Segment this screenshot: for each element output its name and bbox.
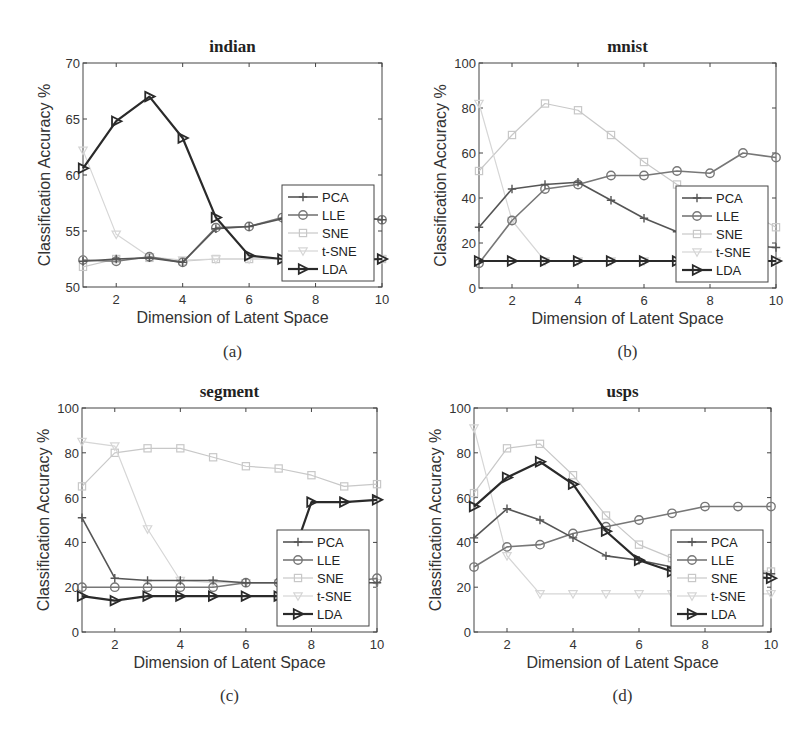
x-tick-label: 10: [769, 293, 783, 308]
y-tick-label: 0: [72, 625, 79, 640]
x-axis-label: Dimension of Latent Space: [526, 654, 718, 671]
legend-label: SNE: [711, 571, 738, 586]
legend-label: t-SNE: [317, 589, 352, 604]
y-tick-label: 100: [57, 401, 79, 416]
legend-label: PCA: [322, 190, 349, 205]
x-tick-label: 2: [111, 637, 118, 652]
y-tick-label: 20: [65, 580, 79, 595]
y-axis-label: Classification Accuracy %: [35, 429, 52, 611]
x-tick-label: 6: [640, 293, 647, 308]
x-tick-label: 6: [635, 637, 642, 652]
x-tick-label: 6: [242, 637, 249, 652]
legend-label: t-SNE: [322, 244, 357, 259]
legend-label: LDA: [711, 607, 737, 622]
y-tick-label: 55: [66, 224, 80, 239]
x-axis-label: Dimension of Latent Space: [133, 654, 325, 671]
y-tick-label: 0: [469, 281, 476, 296]
chart-title: mnist: [607, 37, 648, 56]
legend-label: SNE: [716, 227, 743, 242]
y-tick-label: 50: [66, 280, 80, 295]
x-tick-label: 10: [370, 637, 384, 652]
x-tick-label: 4: [177, 637, 184, 652]
panel-caption: (a): [223, 342, 242, 361]
chart-panel-indian: indian5055606570246810Dimension of Laten…: [36, 37, 389, 361]
chart-panel-segment: segment020406080100246810Dimension of La…: [35, 382, 384, 705]
x-tick-label: 2: [508, 293, 515, 308]
legend-label: LLE: [317, 553, 340, 568]
y-tick-label: 100: [454, 56, 476, 71]
y-tick-label: 40: [65, 535, 79, 550]
chart-title: usps: [606, 382, 639, 401]
x-axis-label: Dimension of Latent Space: [136, 309, 328, 326]
y-tick-label: 80: [65, 446, 79, 461]
legend-label: t-SNE: [716, 245, 751, 260]
y-tick-label: 80: [462, 101, 476, 116]
x-tick-label: 4: [569, 637, 576, 652]
legend-label: LDA: [716, 263, 742, 278]
legend-label: LLE: [716, 209, 739, 224]
x-tick-label: 6: [245, 292, 252, 307]
legend-label: SNE: [322, 226, 349, 241]
y-tick-label: 80: [457, 446, 471, 461]
x-tick-label: 2: [503, 637, 510, 652]
y-tick-label: 40: [462, 191, 476, 206]
x-tick-label: 2: [113, 292, 120, 307]
chart-panel-mnist: mnist020406080100246810Dimension of Late…: [432, 37, 783, 361]
legend: PCALLESNEt-SNELDA: [282, 185, 374, 281]
y-tick-label: 0: [464, 625, 471, 640]
x-tick-label: 4: [574, 293, 581, 308]
y-axis-label: Classification Accuracy %: [432, 84, 449, 266]
legend-label: LLE: [322, 208, 345, 223]
y-tick-label: 65: [66, 112, 80, 127]
y-axis-label: Classification Accuracy %: [36, 84, 53, 266]
legend: PCALLESNEt-SNELDA: [676, 186, 768, 282]
chart-title: segment: [200, 382, 260, 401]
panel-caption: (c): [220, 686, 239, 705]
y-tick-label: 60: [66, 168, 80, 183]
legend-label: PCA: [711, 535, 738, 550]
x-tick-label: 8: [701, 637, 708, 652]
panel-caption: (d): [613, 686, 633, 705]
legend-label: SNE: [317, 571, 344, 586]
y-tick-label: 20: [462, 236, 476, 251]
x-axis-label: Dimension of Latent Space: [531, 310, 723, 327]
chart-title: indian: [209, 37, 256, 56]
legend-label: LDA: [322, 262, 348, 277]
legend-label: LLE: [711, 553, 734, 568]
x-tick-label: 10: [375, 292, 389, 307]
legend-label: PCA: [716, 191, 743, 206]
y-axis-label: Classification Accuracy %: [427, 429, 444, 611]
y-tick-label: 70: [66, 56, 80, 71]
y-tick-label: 60: [65, 491, 79, 506]
y-tick-label: 100: [449, 401, 471, 416]
x-tick-label: 10: [764, 637, 778, 652]
legend: PCALLESNEt-SNELDA: [277, 530, 369, 626]
legend-label: PCA: [317, 535, 344, 550]
y-tick-label: 40: [457, 535, 471, 550]
legend-label: t-SNE: [711, 589, 746, 604]
chart-panel-usps: usps020406080100246810Dimension of Laten…: [427, 382, 778, 705]
figure: indian5055606570246810Dimension of Laten…: [0, 0, 808, 736]
x-tick-label: 8: [312, 292, 319, 307]
y-tick-label: 60: [457, 491, 471, 506]
x-tick-label: 4: [179, 292, 186, 307]
x-tick-label: 8: [308, 637, 315, 652]
x-tick-label: 8: [706, 293, 713, 308]
panel-caption: (b): [618, 342, 638, 361]
legend: PCALLESNEt-SNELDA: [671, 530, 763, 626]
y-tick-label: 20: [457, 580, 471, 595]
y-tick-label: 60: [462, 146, 476, 161]
legend-label: LDA: [317, 607, 343, 622]
